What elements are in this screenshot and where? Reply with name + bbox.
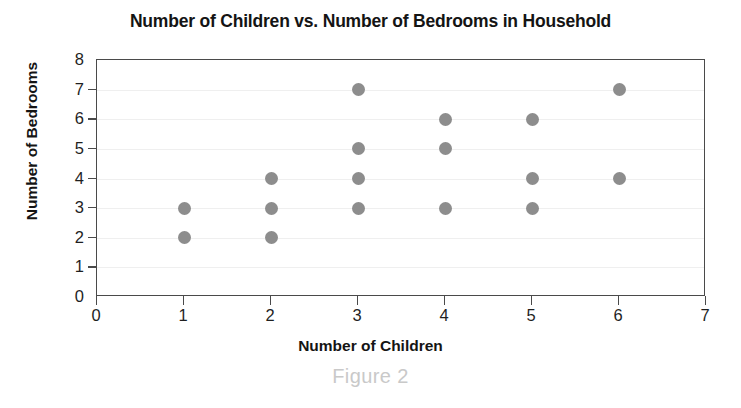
x-tick-label: 6 (598, 307, 638, 324)
figure-caption: Figure 2 (0, 365, 741, 388)
x-tick-mark (705, 296, 706, 305)
plot-area (96, 59, 705, 296)
data-point (265, 202, 278, 215)
gridline (97, 267, 704, 268)
data-point (265, 172, 278, 185)
gridline (97, 149, 704, 150)
y-axis-tick-marks (0, 59, 96, 296)
x-tick-mark (444, 296, 445, 305)
data-point (352, 172, 365, 185)
x-axis-tick-marks (96, 296, 705, 306)
y-tick-mark (88, 148, 96, 149)
chart-title: Number of Children vs. Number of Bedroom… (0, 11, 741, 32)
data-point (439, 113, 452, 126)
x-axis-tick-labels: 01234567 (96, 307, 705, 331)
y-tick-mark (88, 89, 96, 90)
data-point (613, 172, 626, 185)
gridline (97, 119, 704, 120)
x-tick-mark (357, 296, 358, 305)
data-point (352, 202, 365, 215)
data-point (178, 202, 191, 215)
data-point (526, 113, 539, 126)
x-tick-label: 2 (250, 307, 290, 324)
data-point (352, 83, 365, 96)
y-tick-mark (88, 207, 96, 208)
data-point (613, 83, 626, 96)
x-tick-mark (270, 296, 271, 305)
x-tick-label: 4 (424, 307, 464, 324)
data-point (526, 172, 539, 185)
figure-container: Number of Children vs. Number of Bedroom… (0, 0, 741, 408)
data-point (439, 142, 452, 155)
x-tick-label: 7 (685, 307, 725, 324)
y-tick-mark (88, 178, 96, 179)
y-tick-mark (88, 266, 96, 267)
x-tick-label: 5 (511, 307, 551, 324)
data-point (352, 142, 365, 155)
x-tick-mark (96, 296, 97, 305)
y-tick-mark (88, 118, 96, 119)
x-tick-mark (183, 296, 184, 305)
data-point (526, 202, 539, 215)
data-point (178, 231, 191, 244)
data-point (439, 202, 452, 215)
x-tick-mark (618, 296, 619, 305)
x-tick-mark (531, 296, 532, 305)
data-point (265, 231, 278, 244)
y-tick-mark (88, 237, 96, 238)
x-tick-label: 0 (76, 307, 116, 324)
x-tick-label: 1 (163, 307, 203, 324)
x-axis-title: Number of Children (0, 337, 741, 355)
x-tick-label: 3 (337, 307, 377, 324)
